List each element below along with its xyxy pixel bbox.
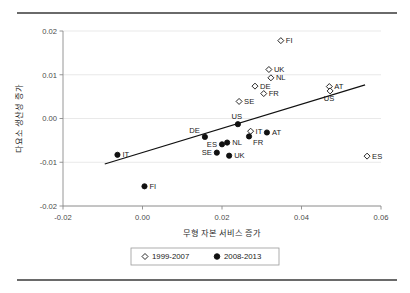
- y-tick-label: -0.01: [40, 158, 57, 167]
- data-point-label: IT: [122, 150, 129, 159]
- data-point-label: FI: [149, 182, 156, 191]
- data-point-marker-open-diamond: [364, 153, 370, 159]
- data-point: NL: [225, 138, 242, 147]
- scatter-plot-panel: 0.020.010.00-0.01-0.02 -0.020.000.020.04…: [0, 16, 410, 276]
- data-point: US: [324, 88, 335, 103]
- legend: 1999-20072008-2013: [131, 248, 279, 265]
- data-point-marker-filled-circle: [115, 152, 120, 157]
- top-divider-rule: [17, 12, 397, 14]
- x-tick-label: 0.04: [294, 213, 309, 222]
- data-point-marker-open-diamond: [266, 67, 272, 73]
- data-point: UK: [227, 151, 245, 160]
- data-point-label: AT: [272, 128, 282, 137]
- data-point: ES: [364, 152, 382, 161]
- data-point-label: ES: [372, 152, 382, 161]
- data-point-marker-open-diamond: [278, 38, 284, 44]
- figure-container: 0.020.010.00-0.01-0.02 -0.020.000.020.04…: [0, 0, 410, 293]
- y-axis-title: 다요소 생산성 증가: [14, 84, 24, 153]
- data-point-marker-open-diamond: [261, 91, 267, 97]
- data-point: IT: [115, 150, 130, 159]
- data-point-marker-open-diamond: [248, 128, 254, 134]
- data-point-label: DE: [189, 126, 200, 135]
- data-point-marker-open-diamond: [236, 98, 242, 104]
- data-point-label: IT: [256, 127, 263, 136]
- y-tick-label: -0.02: [40, 202, 57, 211]
- data-points-group: FIUKNLDEFRATUSSEITESUSDEATFRESNLSEUKITFI: [115, 36, 382, 191]
- data-point-marker-filled-circle: [264, 130, 269, 135]
- data-point: FR: [261, 89, 280, 98]
- bottom-divider-rule: [17, 279, 397, 281]
- data-point-label: US: [324, 94, 335, 103]
- data-point-marker-filled-circle: [227, 153, 232, 158]
- data-point: FR: [246, 134, 263, 147]
- x-tick-label: 0.02: [215, 213, 230, 222]
- x-axis-title: 무형 자본 서비스 증가: [183, 229, 262, 238]
- data-point-marker-filled-circle: [219, 142, 224, 147]
- data-point: SE: [202, 148, 220, 157]
- tick-marks-group: [60, 31, 382, 210]
- data-point-label: NL: [232, 138, 242, 147]
- data-point-label: FR: [269, 89, 280, 98]
- x-tick-label: -0.02: [54, 213, 71, 222]
- data-point-marker-filled-circle: [225, 140, 230, 145]
- data-point-label: FI: [286, 36, 293, 45]
- data-point: FI: [278, 36, 293, 45]
- data-point-label: FR: [253, 138, 264, 147]
- y-tick-label: 0.00: [42, 114, 57, 123]
- data-point-marker-filled-circle: [235, 122, 240, 127]
- data-point-marker-filled-circle: [142, 184, 147, 189]
- data-point-label: SE: [202, 148, 212, 157]
- data-point-marker-filled-circle: [214, 150, 219, 155]
- data-point-label: AT: [334, 82, 344, 91]
- data-point-label: NL: [276, 73, 286, 82]
- data-point-marker-filled-circle: [202, 134, 207, 139]
- x-tick-label: 0.06: [374, 213, 389, 222]
- y-tick-labels-group: 0.020.010.00-0.01-0.02: [40, 27, 57, 211]
- y-tick-label: 0.02: [42, 27, 57, 36]
- legend-marker-filled-circle: [214, 254, 220, 260]
- legend-label-2008-2013: 2008-2013: [224, 252, 261, 261]
- data-point-marker-filled-circle: [246, 134, 251, 139]
- x-tick-labels-group: -0.020.000.020.040.06: [54, 213, 388, 222]
- data-point: FI: [142, 182, 156, 191]
- gridlines-group: [63, 31, 381, 206]
- data-point: SE: [236, 97, 254, 106]
- data-point-marker-open-diamond: [268, 75, 274, 81]
- data-point: AT: [264, 128, 281, 137]
- x-tick-label: 0.00: [135, 213, 150, 222]
- scatter-chart: 0.020.010.00-0.01-0.02 -0.020.000.020.04…: [0, 16, 410, 276]
- data-point-label: SE: [244, 97, 254, 106]
- data-point-label: UK: [234, 151, 245, 160]
- legend-label-1999-2007: 1999-2007: [152, 252, 189, 261]
- data-point-marker-open-diamond: [252, 83, 258, 89]
- data-point-label: US: [232, 112, 243, 121]
- y-tick-label: 0.01: [42, 71, 57, 80]
